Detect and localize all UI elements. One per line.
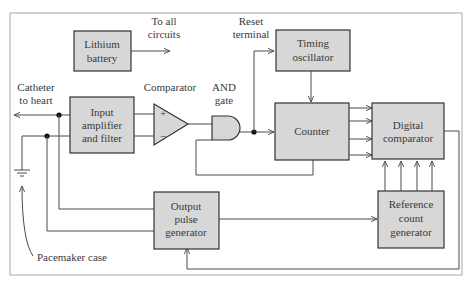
input-amplifier-block: Input amplifier and filter [70,97,134,153]
timing-oscillator-label-2: oscillator [293,51,334,63]
timing-oscillator-label-1: Timing [297,37,330,49]
reference-count-label-2: count [399,212,423,224]
reset-terminal-label-1: Reset [239,15,263,27]
output-pulse-label-2: pulse [174,213,197,225]
lithium-battery-label-1: Lithium [84,38,120,50]
input-amp-label-3: and filter [82,132,122,144]
comparator-symbol: + − [154,104,188,145]
lithium-battery-label-2: battery [87,52,118,64]
ground-wire [22,136,70,170]
digital-comparator-block: Digital comparator [372,103,444,159]
catheter-label-2: to heart [19,94,52,106]
comparator-label: Comparator [144,81,197,93]
output-pulse-label-1: Output [171,200,202,212]
counter-label: Counter [294,125,330,137]
ground-icon [14,170,30,176]
reference-count-label-3: generator [390,226,432,238]
reference-count-label-1: Reference [389,198,434,210]
and-gate-label-1: AND [212,81,236,93]
digital-comparator-label-1: Digital [393,119,424,131]
minus-sign: − [160,130,166,142]
and-gate-label-2: gate [215,94,233,106]
input-amp-label-2: amplifier [82,119,123,131]
input-amp-label-1: Input [90,106,113,118]
pacemaker-diagram: Lithium battery To all circuits Reset te… [0,0,472,281]
timing-oscillator-block: Timing oscillator [276,30,350,71]
counter-block: Counter [275,103,349,160]
pacemaker-case-label: Pacemaker case [37,251,107,263]
output-pulse-label-3: generator [165,226,207,238]
and-gate-symbol [212,116,240,140]
catheter-label-1: Catheter [17,81,55,93]
pacemaker-case-pointer [22,186,33,256]
to-all-circuits-label-1: To all [151,15,176,27]
to-all-circuits-label-2: circuits [148,28,180,40]
digital-comparator-label-2: comparator [383,132,433,144]
lithium-battery-block: Lithium battery [74,31,131,71]
reset-terminal-label-2: terminal [233,28,270,40]
reference-count-block: Reference count generator [378,191,444,248]
plus-sign: + [160,107,166,119]
reset-to-oscillator-arrow [254,51,274,132]
output-pulse-block: Output pulse generator [154,192,219,249]
